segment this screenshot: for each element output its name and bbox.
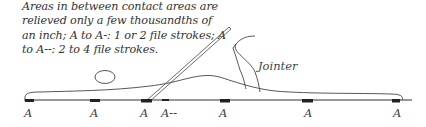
contact-pad-5	[220, 99, 230, 103]
contact-pad-3	[141, 99, 152, 103]
contact-pad-1	[25, 99, 34, 102]
contact-label-4: A--	[161, 106, 177, 120]
file-edge-right	[149, 29, 231, 102]
contact-pad-7	[392, 99, 400, 103]
contact-label-3: A	[140, 106, 148, 120]
jointer-label: Jointer	[258, 59, 298, 73]
knob-oval	[95, 71, 115, 84]
jointer-body-outline	[25, 75, 403, 100]
contact-label-5: A	[219, 106, 227, 120]
file-edge-left	[146, 27, 229, 101]
contact-label-1: A	[24, 106, 32, 120]
contact-pad-2	[90, 99, 100, 102]
contact-label-2: A	[90, 106, 98, 120]
jointer-diagram	[0, 0, 426, 127]
handle-top-curve	[233, 36, 255, 48]
contact-pad-6	[302, 99, 313, 103]
contact-label-6: A	[304, 106, 312, 120]
contact-label-7: A	[393, 106, 401, 120]
file-tip	[229, 27, 231, 29]
contact-pad-4	[162, 99, 169, 101]
